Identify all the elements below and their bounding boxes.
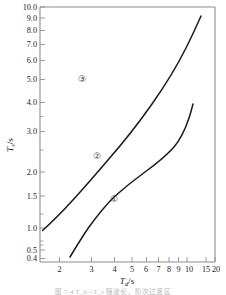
lower-boundary-curve bbox=[70, 104, 193, 257]
svg-text:Td/s: Td/s bbox=[120, 276, 135, 287]
y-tick-label: 9.0 bbox=[27, 14, 37, 23]
figure-caption: 图 7-4 T_d—T_s 随波长、阶次过渡区 bbox=[0, 287, 226, 295]
y-axis-title: Ts/s bbox=[5, 138, 16, 152]
x-axis-title: Td/s bbox=[120, 276, 135, 287]
x-tick-label: 2 bbox=[57, 265, 61, 274]
x-tick-label: 7 bbox=[156, 265, 160, 274]
x-tick-label: 6 bbox=[144, 265, 148, 274]
y-tick-label: 10.0 bbox=[23, 3, 37, 12]
y-tick-label: 2.0 bbox=[27, 168, 37, 177]
x-tick-label: 10 bbox=[185, 265, 193, 274]
y-tick-label: 1.0 bbox=[27, 224, 37, 233]
y-tick-label: 5.0 bbox=[27, 75, 37, 84]
x-tick-label: 15 bbox=[202, 265, 210, 274]
upper-boundary-curve bbox=[43, 16, 202, 231]
x-tick-label: 9 bbox=[176, 265, 180, 274]
region-label-1: ① bbox=[110, 194, 118, 204]
log-log-chart: 10.0 9.0 8.0 7.0 6.0 5.0 4.0 3.0 2.0 1.5… bbox=[0, 0, 226, 295]
x-tick-label: 8 bbox=[167, 265, 171, 274]
y-tick-label: 7.0 bbox=[27, 40, 37, 49]
y-tick-label: 4.0 bbox=[27, 98, 37, 107]
y-axis-tick-labels: 10.0 9.0 8.0 7.0 6.0 5.0 4.0 3.0 2.0 1.5… bbox=[23, 3, 37, 264]
region-label-2: ② bbox=[93, 151, 101, 161]
y-axis-ticks bbox=[40, 7, 45, 259]
y-tick-label: 0.4 bbox=[27, 254, 37, 263]
x-tick-label: 20 bbox=[212, 265, 220, 274]
x-tick-label: 5 bbox=[130, 265, 134, 274]
y-tick-label: 8.0 bbox=[27, 26, 37, 35]
x-axis-ticks bbox=[60, 257, 216, 262]
svg-text:Ts/s: Ts/s bbox=[5, 138, 16, 152]
y-tick-label: 3.0 bbox=[27, 127, 37, 136]
x-axis-tick-labels: 2 3 4 5 6 7 8 9 10 15 20 bbox=[57, 265, 220, 274]
y-tick-label: 1.5 bbox=[27, 192, 37, 201]
y-tick-label: 6.0 bbox=[27, 56, 37, 65]
x-tick-label: 3 bbox=[89, 265, 93, 274]
figure-container: 10.0 9.0 8.0 7.0 6.0 5.0 4.0 3.0 2.0 1.5… bbox=[0, 0, 226, 295]
x-tick-label: 4 bbox=[112, 265, 116, 274]
region-label-3: ③ bbox=[78, 74, 86, 84]
